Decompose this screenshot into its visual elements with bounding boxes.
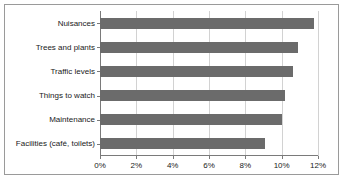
x-tick-label: 8%: [240, 161, 252, 170]
y-tick-mark: [97, 96, 100, 97]
tick-mark-2%: [136, 156, 137, 159]
y-tick-mark: [97, 120, 100, 121]
tick-mark-8%: [245, 156, 246, 159]
bar-row: Things to watch: [100, 84, 318, 108]
tick-mark-10%: [282, 156, 283, 159]
category-label: Traffic levels: [51, 66, 95, 77]
bar-series: NuisancesTrees and plantsTraffic levelsT…: [100, 11, 318, 156]
bar: [100, 66, 293, 77]
tick-mark-4%: [173, 156, 174, 159]
tick-mark-12%: [318, 156, 319, 159]
tick-mark-0%: [100, 156, 101, 159]
y-tick-mark: [97, 144, 100, 145]
bar-row: Trees and plants: [100, 35, 318, 59]
bar-row: Nuisances: [100, 11, 318, 35]
bar: [100, 42, 298, 53]
chart-frame: NuisancesTrees and plantsTraffic levelsT…: [4, 4, 339, 175]
bar-row: Facilities (café, toilets): [100, 132, 318, 156]
bar: [100, 114, 282, 125]
x-tick-label: 2%: [131, 161, 143, 170]
bar: [100, 90, 285, 101]
tick-mark-6%: [209, 156, 210, 159]
plot-area: NuisancesTrees and plantsTraffic levelsT…: [100, 11, 318, 156]
y-tick-mark: [97, 71, 100, 72]
bar-row: Traffic levels: [100, 59, 318, 83]
x-tick-label: 12%: [310, 161, 326, 170]
y-tick-mark: [97, 47, 100, 48]
bar: [100, 138, 265, 149]
gridline-12%: [318, 11, 319, 156]
category-label: Trees and plants: [36, 42, 95, 53]
category-label: Maintenance: [49, 114, 95, 125]
bar-row: Maintenance: [100, 108, 318, 132]
x-tick-label: 6%: [203, 161, 215, 170]
x-tick-label: 4%: [167, 161, 179, 170]
x-tick-label: 0%: [94, 161, 106, 170]
category-label: Nuisances: [58, 18, 95, 29]
category-label: Facilities (café, toilets): [16, 138, 95, 149]
x-tick-label: 10%: [274, 161, 290, 170]
category-label: Things to watch: [39, 90, 95, 101]
y-tick-mark: [97, 23, 100, 24]
bar: [100, 18, 314, 29]
